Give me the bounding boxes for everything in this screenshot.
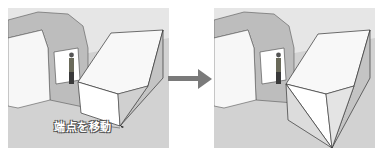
before-panel: 端点を移動 [8,8,169,148]
after-scene [214,8,375,148]
after-panel [214,8,375,148]
move-endpoint-label: 端点を移動 [54,118,112,134]
right-arrow-icon [168,68,212,90]
